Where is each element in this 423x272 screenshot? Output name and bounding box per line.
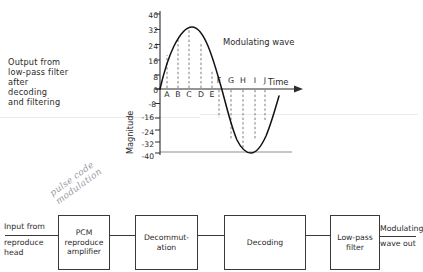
block-pcm-reproduce-amplifier[interactable]: PCM reproduce amplifier (58, 215, 110, 270)
block-label: PCM reproduce amplifier (64, 228, 103, 257)
output-label-line1: Modulating (380, 224, 423, 234)
block-label: Decommut- ation (144, 233, 189, 252)
x-axis-arrow-icon (294, 86, 303, 93)
sample-droplines-lower (219, 90, 265, 150)
block-decommutation[interactable]: Decommut- ation (135, 215, 198, 270)
wire-pcm-to-decomm (108, 235, 135, 236)
wire-decoding-to-lpf (304, 235, 330, 236)
input-label-line3: head (4, 248, 23, 258)
wire-decomm-to-decoding (196, 235, 224, 236)
block-label: Low-pass filter (337, 233, 373, 252)
block-decoding[interactable]: Decoding (224, 215, 306, 270)
wire-input-to-pcm (46, 235, 58, 236)
block-low-pass-filter[interactable]: Low-pass filter (330, 215, 380, 270)
output-label-line2: wave out (380, 239, 416, 249)
input-label-line2: reproduce (4, 238, 44, 248)
output-underline (379, 236, 416, 237)
block-label: Decoding (247, 238, 283, 248)
chart-svg (0, 0, 418, 200)
block-diagram: Input from reproduce head PCM reproduce … (0, 200, 418, 272)
modulating-wave-chart: Magnitude 40 32 24 16 8 0 -8 -16 -24 -32… (0, 0, 418, 200)
input-label-line1: Input from (4, 222, 45, 232)
